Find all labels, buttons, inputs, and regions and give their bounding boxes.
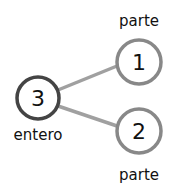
connector-whole-to-part-1 [58, 66, 117, 90]
whole-value: 3 [31, 86, 45, 111]
part-1-label: parte [119, 12, 159, 30]
part-2-label: parte [119, 166, 159, 184]
part-1-value: 1 [132, 50, 146, 75]
part-2-value: 2 [132, 119, 146, 144]
part-node-1: 1 parte [117, 12, 161, 84]
whole-node: 3 entero [14, 77, 63, 144]
part-node-2: 2 parte [117, 109, 161, 184]
connector-whole-to-part-2 [58, 106, 117, 126]
number-bond-diagram: 3 entero 1 parte 2 parte [0, 0, 177, 191]
whole-label: entero [14, 126, 63, 144]
